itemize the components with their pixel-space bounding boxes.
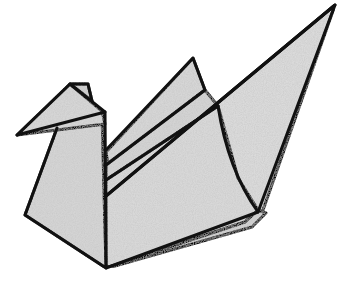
origami-swan-image: Origami paper swan illustration xyxy=(0,0,353,298)
origami-swan-drawing xyxy=(0,0,353,298)
neck xyxy=(25,113,106,268)
